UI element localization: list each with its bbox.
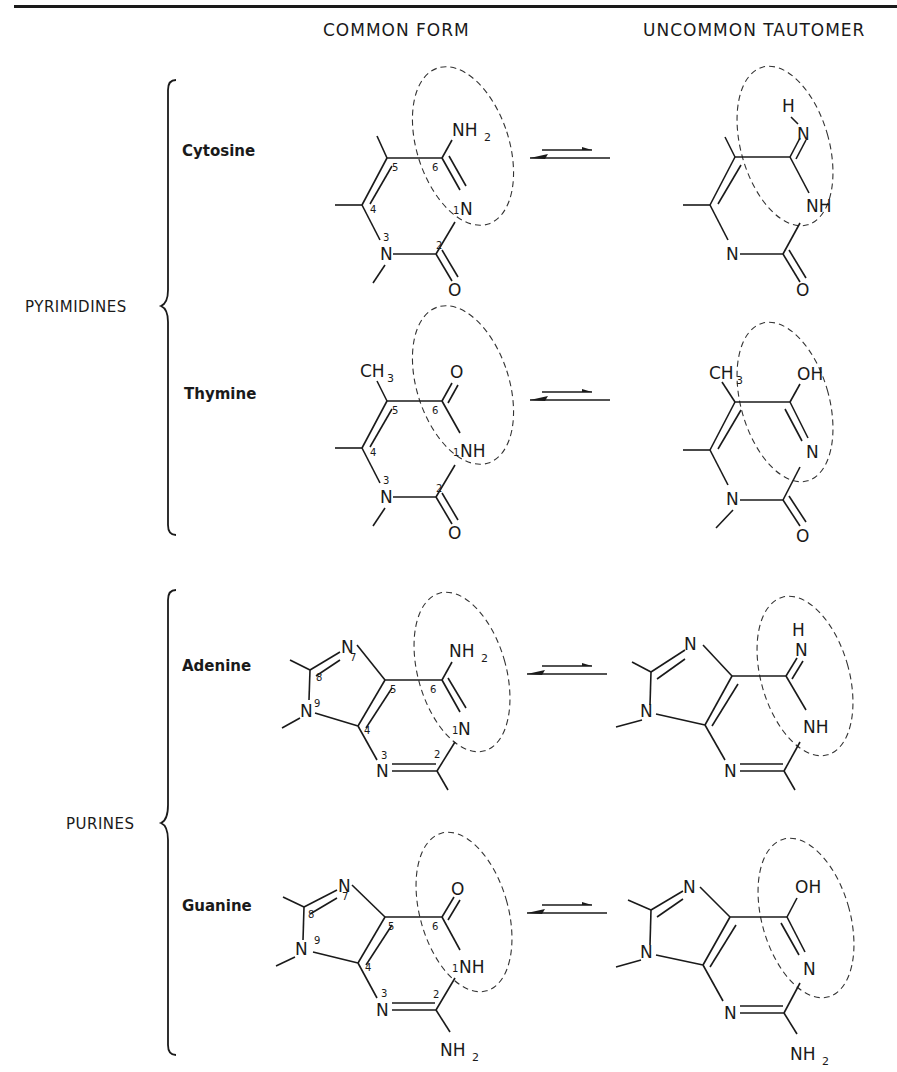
svg-text:N: N bbox=[795, 640, 808, 660]
svg-text:CH: CH bbox=[709, 363, 734, 383]
svg-text:NH: NH bbox=[449, 641, 475, 661]
equilibrium-arrow-adenine bbox=[527, 663, 607, 675]
svg-text:2: 2 bbox=[484, 131, 491, 144]
svg-text:NH: NH bbox=[790, 1044, 816, 1064]
svg-text:O: O bbox=[796, 526, 809, 546]
thymine-common-structure: CH 3 O NH N O 1 2 3 4 5 6 bbox=[335, 293, 532, 543]
svg-text:1: 1 bbox=[453, 447, 459, 458]
svg-text:8: 8 bbox=[316, 672, 322, 683]
svg-text:N: N bbox=[640, 942, 653, 962]
svg-text:H: H bbox=[782, 96, 795, 116]
svg-text:O: O bbox=[450, 362, 463, 382]
svg-text:6: 6 bbox=[430, 684, 436, 695]
svg-text:N: N bbox=[803, 959, 816, 979]
svg-text:NH: NH bbox=[460, 441, 486, 461]
svg-text:OH: OH bbox=[797, 364, 823, 384]
svg-text:O: O bbox=[448, 280, 461, 300]
svg-text:3: 3 bbox=[736, 374, 743, 387]
svg-text:4: 4 bbox=[370, 204, 376, 215]
svg-text:4: 4 bbox=[365, 962, 371, 973]
svg-text:5: 5 bbox=[392, 405, 398, 416]
cytosine-common-structure: NH 2 N N O 1 2 3 4 5 6 bbox=[335, 54, 532, 300]
equilibrium-arrow-cytosine bbox=[530, 147, 610, 159]
svg-text:N: N bbox=[726, 489, 739, 509]
svg-text:6: 6 bbox=[432, 921, 438, 932]
svg-text:3: 3 bbox=[383, 475, 389, 486]
svg-text:4: 4 bbox=[370, 447, 376, 458]
svg-text:3: 3 bbox=[381, 988, 387, 999]
tautomer-diagram: NH 2 N N O 1 2 3 4 5 6 H N NH N bbox=[0, 0, 897, 1072]
svg-text:2: 2 bbox=[481, 652, 488, 665]
svg-text:N: N bbox=[380, 487, 393, 507]
svg-text:3: 3 bbox=[381, 750, 387, 761]
svg-text:7: 7 bbox=[350, 652, 356, 663]
svg-text:N: N bbox=[684, 634, 697, 654]
svg-text:1: 1 bbox=[452, 725, 458, 736]
svg-text:9: 9 bbox=[314, 698, 320, 709]
equilibrium-arrow-thymine bbox=[530, 389, 610, 401]
cytosine-tautomer-structure: H N NH N O bbox=[683, 55, 850, 300]
svg-text:NH: NH bbox=[803, 717, 829, 737]
svg-text:N: N bbox=[376, 1000, 389, 1020]
adenine-common-structure: N N NH 2 N N 1 2 3 4 5 6 7 8 9 bbox=[282, 581, 527, 790]
svg-text:NH: NH bbox=[440, 1040, 466, 1060]
svg-text:1: 1 bbox=[453, 205, 459, 216]
svg-text:NH: NH bbox=[806, 196, 832, 216]
svg-text:9: 9 bbox=[314, 935, 320, 946]
svg-text:N: N bbox=[300, 701, 313, 721]
svg-text:5: 5 bbox=[388, 921, 394, 932]
svg-text:H: H bbox=[792, 620, 805, 640]
svg-text:5: 5 bbox=[392, 162, 398, 173]
svg-text:2: 2 bbox=[433, 989, 439, 1000]
svg-text:O: O bbox=[796, 280, 809, 300]
purines-brace bbox=[161, 590, 176, 1055]
svg-text:2: 2 bbox=[436, 483, 442, 494]
svg-text:8: 8 bbox=[308, 909, 314, 920]
svg-text:N: N bbox=[376, 761, 389, 781]
svg-text:2: 2 bbox=[472, 1051, 479, 1064]
svg-text:N: N bbox=[726, 244, 739, 264]
svg-text:NH: NH bbox=[459, 957, 485, 977]
svg-text:1: 1 bbox=[452, 963, 458, 974]
svg-text:N: N bbox=[797, 124, 810, 144]
svg-text:7: 7 bbox=[342, 891, 348, 902]
svg-text:6: 6 bbox=[432, 405, 438, 416]
svg-text:3: 3 bbox=[383, 232, 389, 243]
guanine-common-structure: N N O NH N NH 2 1 2 3 4 5 6 7 8 9 bbox=[276, 821, 529, 1064]
svg-text:N: N bbox=[806, 442, 819, 462]
svg-text:O: O bbox=[448, 523, 461, 543]
svg-text:NH: NH bbox=[452, 120, 478, 140]
equilibrium-arrow-guanine bbox=[527, 902, 607, 914]
svg-text:N: N bbox=[458, 719, 471, 739]
svg-text:N: N bbox=[683, 877, 696, 897]
pyrimidines-brace bbox=[161, 80, 176, 535]
svg-text:N: N bbox=[724, 1003, 737, 1023]
svg-text:N: N bbox=[295, 939, 308, 959]
svg-text:N: N bbox=[724, 761, 737, 781]
adenine-tautomer-structure: N N H N NH N bbox=[616, 585, 870, 790]
svg-text:CH: CH bbox=[360, 361, 385, 381]
svg-text:O: O bbox=[451, 879, 464, 899]
thymine-tautomer-structure: CH 3 OH N N O bbox=[683, 311, 850, 546]
guanine-tautomer-structure: N N OH N N NH 2 bbox=[616, 827, 871, 1068]
svg-text:OH: OH bbox=[795, 877, 821, 897]
svg-text:N: N bbox=[380, 244, 393, 264]
svg-text:2: 2 bbox=[434, 749, 440, 760]
svg-text:N: N bbox=[640, 701, 653, 721]
svg-text:2: 2 bbox=[822, 1055, 829, 1068]
svg-text:6: 6 bbox=[432, 162, 438, 173]
svg-text:2: 2 bbox=[436, 240, 442, 251]
svg-text:5: 5 bbox=[390, 684, 396, 695]
svg-text:4: 4 bbox=[364, 725, 370, 736]
svg-text:3: 3 bbox=[387, 372, 394, 385]
svg-text:N: N bbox=[460, 199, 473, 219]
